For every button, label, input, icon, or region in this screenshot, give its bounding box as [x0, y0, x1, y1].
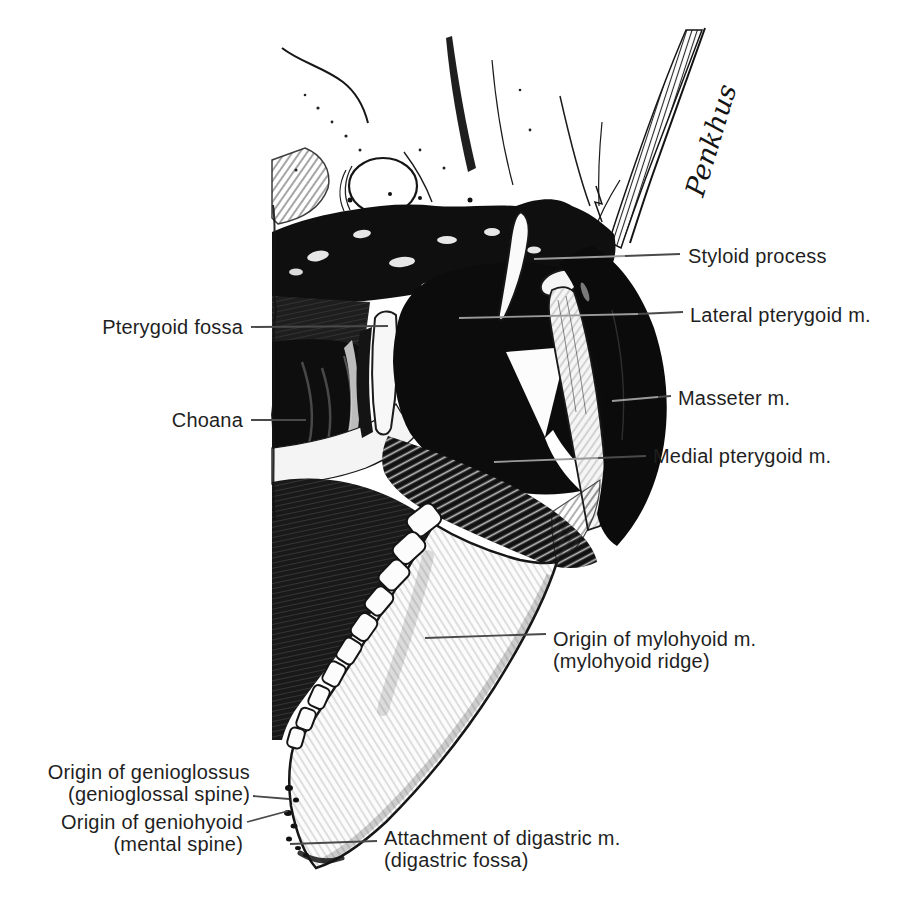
- label-geniohyoid: Origin of geniohyoid (mental spine): [20, 811, 243, 855]
- label-lateral-pterygoid-text: Lateral pterygoid m.: [690, 304, 871, 326]
- skull-top-fragments: [272, 48, 531, 224]
- label-medial-pterygoid-text: Medial pterygoid m.: [653, 445, 831, 467]
- label-medial-pterygoid: Medial pterygoid m.: [653, 445, 831, 467]
- label-masseter-text: Masseter m.: [678, 387, 790, 409]
- label-styloid-process-text: Styloid process: [688, 245, 827, 267]
- label-masseter: Masseter m.: [678, 387, 790, 409]
- label-choana-text: Choana: [58, 409, 243, 431]
- label-mylohyoid: Origin of mylohyoid m. (mylohyoid ridge): [553, 628, 756, 672]
- label-choana: Choana: [58, 409, 243, 431]
- zygomatic-arch: [609, 28, 705, 248]
- label-pterygoid-fossa: Pterygoid fossa: [58, 316, 243, 338]
- leader-masseter: [658, 396, 671, 397]
- anatomical-figure: Penkhus: [0, 0, 905, 903]
- leader-genioglossus: [253, 796, 289, 799]
- label-genioglossus-line2: (genioglossal spine): [20, 783, 250, 805]
- label-digastric: Attachment of digastric m. (digastric fo…: [384, 827, 620, 871]
- label-lateral-pterygoid: Lateral pterygoid m.: [690, 304, 871, 326]
- leader-geniohyoid: [247, 811, 288, 822]
- label-geniohyoid-line2: (mental spine): [20, 833, 243, 855]
- label-mylohyoid-line2: (mylohyoid ridge): [553, 650, 756, 672]
- leader-pterygoid-fossa: [251, 326, 388, 327]
- illustrator-signature: Penkhus: [679, 80, 743, 200]
- label-genioglossus-line1: Origin of genioglossus: [20, 761, 250, 783]
- label-styloid-process: Styloid process: [688, 245, 827, 267]
- label-mylohyoid-line1: Origin of mylohyoid m.: [553, 628, 756, 650]
- label-geniohyoid-line1: Origin of geniohyoid: [20, 811, 243, 833]
- label-digastric-line1: Attachment of digastric m.: [384, 827, 620, 849]
- label-genioglossus: Origin of genioglossus (genioglossal spi…: [20, 761, 250, 805]
- label-pterygoid-fossa-text: Pterygoid fossa: [58, 316, 243, 338]
- leader-styloid: [625, 254, 680, 256]
- label-digastric-line2: (digastric fossa): [384, 849, 620, 871]
